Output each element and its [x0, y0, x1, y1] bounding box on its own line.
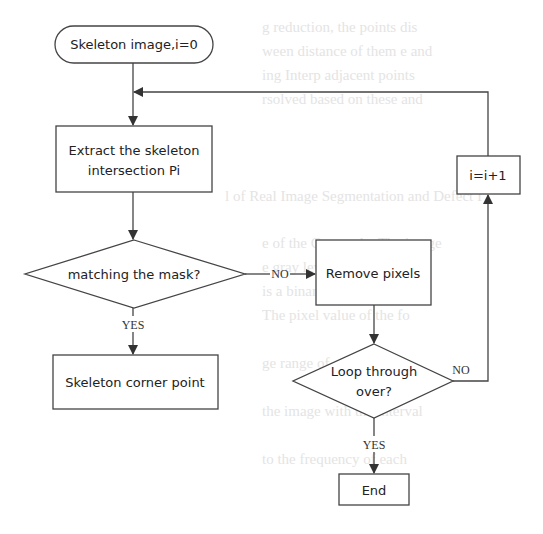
- node-match: matching the mask?: [25, 240, 245, 308]
- loop-label-line2: over?: [356, 384, 392, 399]
- remove-label: Remove pixels: [326, 266, 421, 281]
- extract-label-line2: intersection Pi: [88, 163, 180, 178]
- node-start: Skeleton image,i=0: [55, 26, 213, 63]
- start-label: Skeleton image,i=0: [70, 37, 198, 52]
- match-label: matching the mask?: [68, 267, 201, 282]
- node-end: End: [339, 474, 409, 505]
- flowchart: Skeleton image,i=0 Extract the skeleton …: [0, 0, 543, 534]
- increment-label: i=i+1: [469, 168, 506, 183]
- extract-label-line1: Extract the skeleton: [69, 143, 200, 158]
- edge-label-loop-no: NO: [452, 363, 470, 377]
- loop-label-line1: Loop through: [331, 364, 417, 379]
- node-corner: Skeleton corner point: [53, 355, 218, 409]
- decision-shape: [293, 344, 453, 418]
- edge-label-match-yes: YES: [122, 318, 145, 332]
- corner-label: Skeleton corner point: [65, 375, 204, 390]
- node-remove: Remove pixels: [316, 240, 431, 305]
- edge-label-loop-yes: YES: [363, 438, 386, 452]
- process-shape: [56, 126, 212, 192]
- node-loop: Loop through over?: [293, 344, 453, 418]
- edge-label-match-no: NO: [271, 267, 289, 281]
- end-label: End: [362, 483, 387, 498]
- node-increment: i=i+1: [457, 156, 520, 194]
- edge-loop-no: [453, 195, 488, 381]
- node-extract: Extract the skeleton intersection Pi: [56, 126, 212, 192]
